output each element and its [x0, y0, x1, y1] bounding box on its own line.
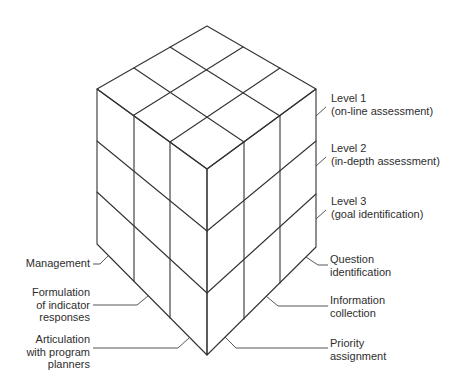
label-level-1-title: Level 1 [331, 92, 433, 105]
cube-left-face [97, 89, 207, 355]
label-level-2-subtitle: (in-depth assessment) [331, 155, 440, 168]
cube-top-face [97, 26, 316, 169]
label-information-collection: Information collection [330, 294, 385, 319]
left-bottom-leaders [93, 256, 189, 348]
label-line: Management [26, 257, 90, 270]
label-line: identification [330, 266, 391, 279]
label-priority-assignment: Priority assignment [330, 337, 386, 362]
label-level-3-title: Level 3 [331, 195, 423, 208]
label-management: Management [26, 257, 90, 270]
label-line: Information [330, 294, 385, 307]
label-level-3-subtitle: (goal identification) [331, 208, 423, 221]
label-level-2-title: Level 2 [331, 142, 440, 155]
level-leaders [316, 107, 326, 219]
label-level-1: Level 1 (on-line assessment) [331, 92, 433, 117]
label-level-3: Level 3 (goal identification) [331, 195, 423, 220]
label-line: with program [26, 346, 90, 359]
label-articulation: Articulation with program planners [26, 333, 90, 371]
label-level-1-subtitle: (on-line assessment) [331, 105, 433, 118]
label-line: Priority [330, 337, 386, 350]
label-line: assignment [330, 350, 386, 363]
label-level-2: Level 2 (in-depth assessment) [331, 142, 440, 167]
label-line: Question [330, 253, 391, 266]
cube-right-face [207, 89, 316, 355]
right-bottom-leaders [225, 257, 328, 348]
label-question-identification: Question identification [330, 253, 391, 278]
label-line: Formulation [32, 286, 90, 299]
label-line: of indicator [32, 299, 90, 312]
label-line: planners [26, 358, 90, 371]
label-formulation: Formulation of indicator responses [32, 286, 90, 324]
label-line: responses [32, 311, 90, 324]
label-line: collection [330, 307, 385, 320]
label-line: Articulation [26, 333, 90, 346]
